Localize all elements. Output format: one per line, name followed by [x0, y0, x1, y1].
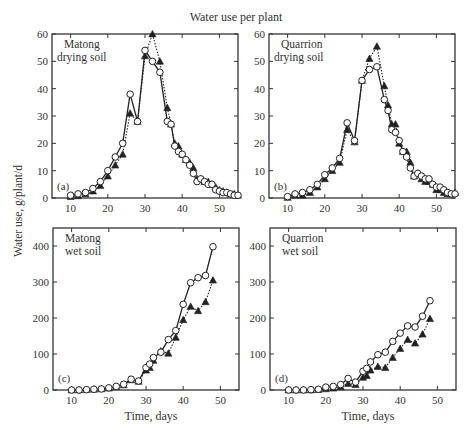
y-tick-label: 10	[254, 165, 266, 177]
data-point-circle	[120, 381, 127, 388]
data-point-circle	[285, 387, 292, 394]
y-tick-label: 50	[37, 55, 49, 67]
data-point-circle	[172, 327, 179, 334]
data-point-triangle	[209, 277, 216, 283]
x-tick-label: 50	[432, 394, 444, 406]
data-point-circle	[392, 129, 399, 136]
panel-letter: (d)	[275, 372, 288, 385]
data-point-circle	[168, 121, 175, 128]
panel-title: Quarrion	[281, 38, 323, 50]
data-point-circle	[105, 167, 112, 174]
x-tick-label: 30	[358, 394, 370, 406]
data-point-circle	[149, 58, 156, 65]
data-point-circle	[322, 171, 329, 178]
x-tick-label: 40	[395, 394, 407, 406]
data-point-circle	[67, 192, 74, 199]
data-point-triangle	[180, 316, 187, 322]
data-point-circle	[134, 118, 141, 125]
data-point-circle	[142, 47, 149, 54]
data-point-circle	[315, 386, 322, 393]
data-point-circle	[180, 301, 187, 308]
data-point-circle	[83, 386, 90, 393]
x-tick-label: 20	[102, 202, 114, 214]
series-line-open-circles	[289, 301, 430, 390]
data-point-circle	[97, 178, 104, 185]
y-tick-label: 300	[250, 276, 267, 288]
data-point-circle	[195, 274, 202, 281]
data-point-circle	[374, 64, 381, 71]
data-point-circle	[419, 313, 426, 320]
data-point-circle	[210, 243, 217, 250]
data-point-circle	[381, 96, 388, 103]
figure-canvas: 10203040500102030405060Matongdrying soil…	[0, 0, 472, 433]
data-point-circle	[284, 193, 291, 200]
data-point-circle	[150, 354, 157, 361]
data-point-circle	[344, 120, 351, 127]
panel-a-matong-drying: 10203040500102030405060Matongdrying soil…	[37, 28, 242, 214]
data-point-circle	[396, 137, 403, 144]
panel-letter: (c)	[58, 372, 71, 385]
y-tick-label: 60	[37, 28, 49, 40]
x-tick-label: 50	[214, 202, 226, 214]
data-point-circle	[202, 272, 209, 279]
data-point-circle	[119, 140, 126, 147]
y-tick-label: 100	[33, 348, 50, 360]
data-point-circle	[385, 107, 392, 114]
data-point-triangle	[426, 315, 433, 321]
x-tick-label: 10	[66, 394, 78, 406]
data-point-triangle	[366, 55, 373, 61]
x-tick-label: 40	[177, 202, 189, 214]
y-tick-label: 0	[261, 384, 267, 396]
x-axis-label: Time, days	[342, 409, 395, 423]
data-point-circle	[323, 384, 330, 391]
data-point-circle	[351, 137, 358, 144]
x-tick-label: 30	[357, 202, 369, 214]
data-point-triangle	[156, 58, 163, 64]
data-point-circle	[359, 77, 366, 84]
data-point-circle	[235, 192, 242, 199]
series-line-open-circles	[72, 247, 213, 390]
data-point-triangle	[119, 151, 126, 157]
data-point-circle	[307, 187, 314, 194]
panel-title: Matong	[64, 38, 100, 51]
x-tick-label: 10	[282, 202, 294, 214]
y-tick-label: 0	[44, 384, 50, 396]
data-point-circle	[75, 191, 82, 198]
panel-title: Quarrion	[282, 232, 324, 244]
y-tick-label: 400	[33, 240, 50, 252]
data-point-triangle	[187, 303, 194, 309]
x-tick-label: 30	[141, 394, 153, 406]
panel-subtitle: wet soil	[282, 245, 318, 257]
data-point-triangle	[373, 43, 380, 49]
y-tick-label: 20	[254, 137, 266, 149]
panel-subtitle: drying soil	[57, 51, 107, 64]
data-point-circle	[299, 189, 306, 196]
series-line-open-circles	[71, 50, 238, 195]
data-point-circle	[113, 383, 120, 390]
y-tick-label: 300	[33, 276, 50, 288]
data-point-circle	[91, 386, 98, 393]
data-point-circle	[76, 387, 83, 394]
data-point-circle	[82, 189, 89, 196]
panel-title: Matong	[65, 232, 101, 245]
x-tick-label: 30	[140, 202, 152, 214]
y-tick-label: 0	[43, 192, 49, 204]
data-point-circle	[186, 162, 193, 169]
data-point-circle	[314, 181, 321, 188]
panel-d-quarrion-wet: 10203040500100200300400Quarrionwet soil(…	[250, 228, 457, 423]
data-point-circle	[98, 386, 105, 393]
y-tick-label: 200	[33, 312, 50, 324]
y-tick-label: 20	[37, 137, 49, 149]
x-tick-label: 10	[65, 202, 77, 214]
panel-subtitle: drying soil	[274, 51, 324, 64]
data-point-triangle	[404, 336, 411, 342]
data-point-circle	[382, 349, 389, 356]
x-tick-label: 20	[319, 202, 331, 214]
y-tick-label: 400	[250, 240, 267, 252]
data-point-circle	[389, 338, 396, 345]
data-point-circle	[403, 154, 410, 161]
data-point-circle	[336, 155, 343, 162]
y-tick-label: 0	[260, 192, 266, 204]
data-point-circle	[375, 351, 382, 358]
data-point-circle	[293, 387, 300, 394]
